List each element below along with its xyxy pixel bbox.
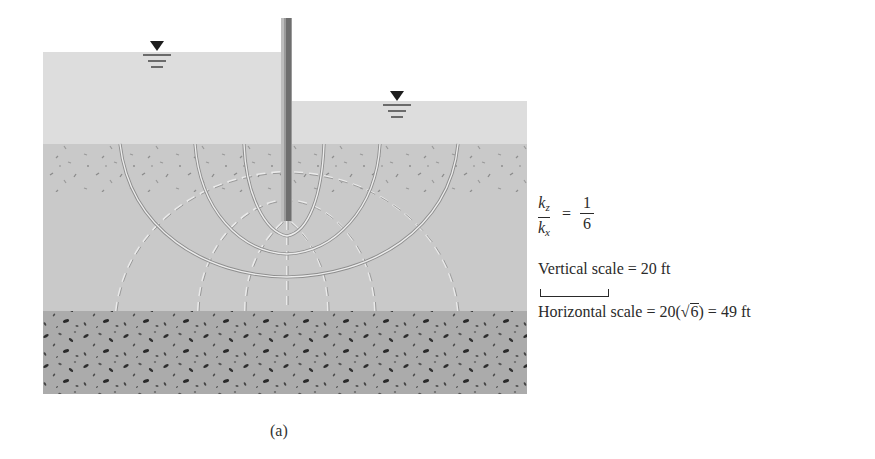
ratio-lhs-fraction: kz kx — [538, 194, 550, 241]
horizontal-scale-label: Horizontal scale = 20(√6) = 49 ft — [538, 303, 751, 321]
upstream-water — [43, 52, 283, 144]
flow-net-figure: kz kx = 1 6 Vertical scale = 20 ft Horiz… — [0, 0, 875, 459]
figure-caption: (a) — [270, 422, 288, 440]
scale-bar — [540, 289, 609, 297]
sqrt-argument: 6 — [690, 303, 699, 319]
impermeable-layer — [43, 311, 527, 394]
sheet-pile — [281, 18, 292, 221]
flow-net-diagram — [0, 0, 875, 459]
ratio-rhs-fraction: 1 6 — [580, 194, 594, 233]
ratio-denominator: 6 — [580, 215, 594, 233]
horizontal-scale-prefix: Horizontal scale = 20( — [538, 303, 681, 320]
fraction-bar — [580, 213, 594, 214]
downstream-water — [290, 101, 527, 144]
kx-subscript: x — [545, 226, 550, 238]
kz-subscript: z — [545, 201, 549, 213]
fraction-bar — [538, 217, 550, 218]
sqrt-icon: √ — [681, 303, 690, 320]
horizontal-scale-suffix: ) = 49 ft — [699, 303, 751, 320]
ratio-numerator: 1 — [580, 194, 594, 212]
equals-sign: = — [562, 205, 571, 223]
vertical-scale-label: Vertical scale = 20 ft — [538, 260, 671, 278]
